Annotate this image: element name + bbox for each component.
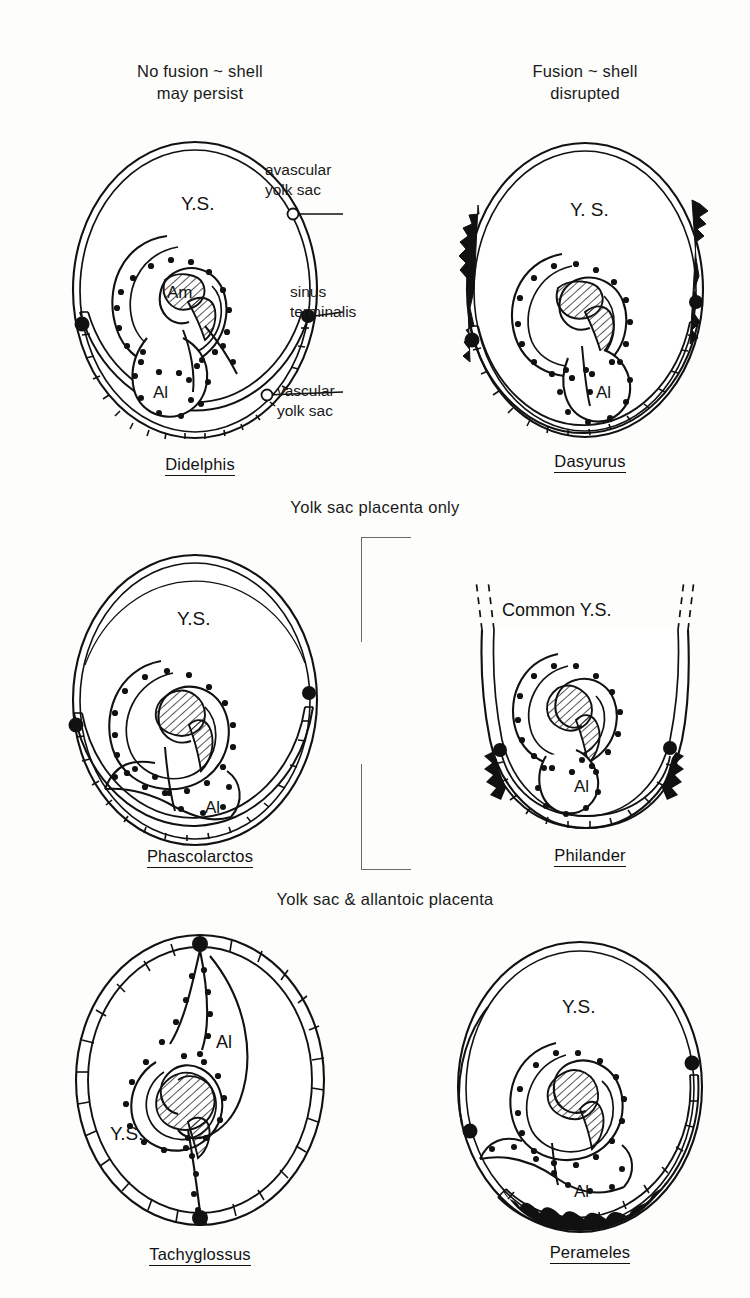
label-yolk-sac: Y.S.: [562, 996, 595, 1017]
panel-philander: Common Y.S. Al: [440, 560, 730, 860]
perameles-drawing: Y.S. Al: [440, 935, 730, 1245]
panel-dasyurus: Y. S. Al: [450, 130, 730, 450]
callout-avascular-yolk-sac: avascular yolk sac: [265, 160, 415, 200]
label-yolk-sac: Y.S.: [110, 1123, 143, 1144]
label-allantois: Al: [596, 383, 611, 402]
dasyurus-drawing: Y. S. Al: [450, 130, 730, 450]
phascolarctos-drawing: Y.S. Al: [55, 545, 345, 855]
species-label-dasyurus: Dasyurus: [450, 452, 730, 473]
label-allantois: Al: [574, 777, 589, 796]
label-yolk-sac: Y. S.: [570, 199, 609, 220]
species-name: Dasyurus: [554, 452, 625, 473]
label-allantois: Al: [574, 1182, 589, 1201]
species-label-didelphis: Didelphis: [55, 455, 345, 476]
column-header-right: Fusion ~ shell disrupted: [450, 60, 720, 105]
bracket-upper: [361, 537, 411, 538]
tachyglossus-drawing: Al Y.S.: [60, 930, 350, 1240]
label-allantois: Al: [216, 1032, 232, 1052]
label-amnion: Am: [167, 283, 193, 302]
species-name: Tachyglossus: [149, 1245, 250, 1266]
panel-tachyglossus: Al Y.S.: [60, 930, 350, 1240]
species-label-phascolarctos: Phascolarctos: [55, 847, 345, 868]
panel-phascolarctos: Y.S. Al: [55, 545, 345, 855]
species-name: Philander: [554, 846, 626, 867]
section-label-yolk-sac-and-allantoic-placenta: Yolk sac & allantoic placenta: [205, 890, 565, 909]
label-yolk-sac: Y.S.: [181, 193, 214, 214]
callout-sinus-terminalis: sinus terminalis: [290, 282, 430, 322]
label-allantois: Al: [205, 798, 220, 817]
label-yolk-sac: Y.S.: [177, 608, 210, 629]
species-label-philander: Philander: [450, 846, 730, 867]
species-name: Phascolarctos: [147, 847, 253, 868]
species-label-tachyglossus: Tachyglossus: [55, 1245, 345, 1266]
bracket-lower: [361, 869, 411, 870]
bracket-lower-stem: [361, 764, 362, 870]
figure-canvas: No fusion ~ shell may persist Fusion ~ s…: [0, 0, 750, 1298]
section-label-yolk-sac-placenta-only: Yolk sac placenta only: [225, 498, 525, 517]
panel-perameles: Y.S. Al: [440, 935, 730, 1245]
species-name: Didelphis: [165, 455, 235, 476]
bracket-upper-stem: [361, 537, 362, 642]
label-common-yolk-sac: Common Y.S.: [502, 600, 611, 620]
label-allantois: Al: [153, 383, 168, 402]
column-header-left: No fusion ~ shell may persist: [60, 60, 340, 105]
species-name: Perameles: [550, 1243, 631, 1264]
species-label-perameles: Perameles: [450, 1243, 730, 1264]
philander-drawing: Common Y.S. Al: [440, 560, 730, 860]
callout-vascular-yolk-sac: vascular yolk sac: [277, 381, 417, 421]
